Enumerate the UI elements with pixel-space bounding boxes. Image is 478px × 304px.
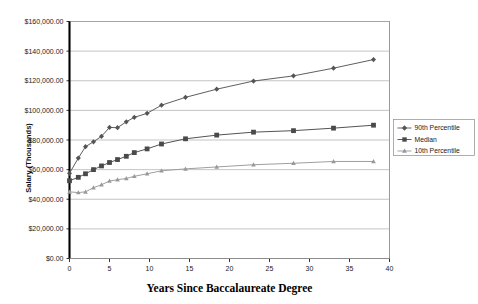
marker-square [107,160,112,165]
marker-square [159,142,164,147]
legend-item-label: Median [415,136,438,143]
x-tick-label: 15 [186,265,194,272]
y-tick-label: $160,000.00 [25,18,64,25]
x-tick-label: 20 [226,265,234,272]
marker-square [214,133,219,138]
marker-square [132,150,137,155]
marker-square [124,154,129,159]
x-tick-label: 35 [346,265,354,272]
marker-square [402,137,406,141]
y-tick-label: $40,000.00 [28,196,63,203]
marker-square [83,171,88,176]
y-tick-label: $140,000.00 [25,48,64,55]
marker-square [371,123,376,128]
marker-square [331,126,336,131]
x-tick-label: 10 [146,265,154,272]
marker-square [67,178,72,183]
y-tick-label: $60,000.00 [28,166,63,173]
marker-square [99,164,104,169]
y-axis-title: Salary (Thousands) [24,123,33,193]
y-tick-label: $120,000.00 [25,77,64,84]
x-tick-label: 30 [306,265,314,272]
marker-square [183,136,188,141]
legend-item-label: 10th Percentile [415,147,461,154]
legend: 90th PercentileMedian10th Percentile [394,120,475,156]
x-tick-label: 5 [108,265,112,272]
x-tick-label: 25 [266,265,274,272]
marker-square [251,130,256,135]
y-tick-label: $0.00 [46,255,64,262]
x-axis-title: Years Since Baccalaureate Degree [147,282,313,295]
y-tick-label: $80,000.00 [28,137,63,144]
salary-line-chart: $0.00$20,000.00$40,000.00$60,000.00$80,0… [0,0,478,304]
marker-square [91,167,96,172]
marker-square [291,128,296,133]
legend-item-label: 90th Percentile [415,124,461,131]
y-tick-label: $20,000.00 [28,225,63,232]
marker-square [76,175,81,180]
marker-square [115,157,120,162]
marker-square [145,146,150,151]
x-tick-label: 0 [68,265,72,272]
x-tick-label: 40 [386,265,394,272]
chart-container: $0.00$20,000.00$40,000.00$60,000.00$80,0… [0,0,478,304]
y-tick-label: $100,000.00 [25,107,64,114]
